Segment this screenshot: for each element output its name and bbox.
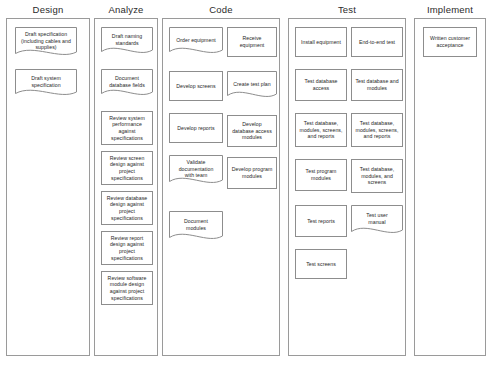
task-node-label: Review software module design against pr… (105, 275, 149, 301)
task-node-label: Written customer acceptance (427, 35, 473, 48)
task-lane-test-lane-2: End-to-end testTest database and modules… (289, 19, 405, 355)
task-node-review-software-module-design[interactable]: Review software module design against pr… (101, 271, 153, 305)
task-node-label: End-to-end test (355, 39, 399, 46)
task-node-receive-equipment[interactable]: Receive equipment (227, 27, 277, 57)
phase-task-board: DesignDraft specification (including cab… (0, 0, 492, 370)
phase-column-body-implement: Written customer acceptance (414, 18, 486, 356)
task-lane-analyze-lane-1: Draft naming standardsDocument database … (95, 19, 157, 355)
task-node-draft-specification[interactable]: Draft specification (including cables an… (15, 27, 77, 61)
task-node-develop-database-access-modules[interactable]: Develop database access modules (227, 115, 277, 147)
phase-column-header-design: Design (6, 4, 90, 16)
phase-column-body-code: Order equipmentDevelop screensDevelop re… (162, 18, 280, 356)
task-node-test-database-and-modules[interactable]: Test database and modules (351, 69, 403, 101)
task-node-review-database-design[interactable]: Review database design against project s… (101, 191, 153, 225)
task-node-label: Validate documentation with team (175, 159, 217, 179)
task-node-end-to-end-test[interactable]: End-to-end test (351, 27, 403, 57)
task-node-review-system-performance[interactable]: Review system performance against specif… (101, 111, 153, 145)
phase-column-body-analyze: Draft naming standardsDocument database … (94, 18, 158, 356)
phase-column-header-test: Test (288, 4, 406, 16)
phase-column-body-design: Draft specification (including cables an… (6, 18, 90, 356)
task-lane-design-lane-1: Draft specification (including cables an… (7, 19, 89, 355)
task-node-review-screen-design[interactable]: Review screen design against project spe… (101, 151, 153, 185)
task-node-label: Develop database access modules (231, 121, 273, 141)
task-node-draft-system-specification[interactable]: Draft system specification (15, 69, 77, 101)
phase-column-implement: ImplementWritten customer acceptance (414, 4, 486, 356)
task-node-draft-naming-standards[interactable]: Draft naming standards (101, 27, 153, 59)
task-node-label: Draft system specification (21, 75, 71, 88)
task-node-test-user-manual[interactable]: Test user manual (351, 205, 403, 239)
task-node-label: Order equipment (175, 37, 217, 44)
task-node-label: Document modules (175, 218, 217, 231)
phase-column-test: TestInstall equipmentTest database acces… (288, 4, 406, 356)
task-node-label: Test database and modules (355, 78, 399, 91)
phase-column-header-code: Code (162, 4, 280, 16)
task-node-document-database-fields[interactable]: Document database fields (101, 69, 153, 101)
task-node-label: Draft naming standards (107, 33, 147, 46)
task-node-label: Document database fields (107, 75, 147, 88)
task-node-label: Review system performance against specif… (105, 115, 149, 141)
task-node-test-database-modules-screens-and-reports-2[interactable]: Test database, modules, screens, and rep… (351, 113, 403, 147)
task-node-develop-program-modules[interactable]: Develop program modules (227, 157, 277, 189)
task-node-test-database-modules-and-screens[interactable]: Test database, modules, and screens (351, 159, 403, 193)
task-node-label: Receive equipment (231, 35, 273, 48)
task-node-label: Review database design against project s… (105, 195, 149, 221)
phase-column-header-analyze: Analyze (94, 4, 158, 16)
task-node-label: Test user manual (357, 212, 397, 225)
phase-column-header-implement: Implement (414, 4, 486, 16)
phase-column-analyze: AnalyzeDraft naming standardsDocument da… (94, 4, 158, 356)
task-node-review-report-design[interactable]: Review report design against project spe… (101, 231, 153, 265)
task-node-label: Create test plan (233, 81, 271, 88)
task-node-written-customer-acceptance[interactable]: Written customer acceptance (423, 27, 477, 57)
phase-column-design: DesignDraft specification (including cab… (6, 4, 90, 356)
task-node-create-test-plan[interactable]: Create test plan (227, 71, 277, 103)
task-node-label: Test database, modules, screens, and rep… (355, 120, 399, 140)
task-node-label: Draft specification (including cables an… (21, 31, 71, 51)
task-lane-implement-lane-1: Written customer acceptance (415, 19, 485, 355)
task-node-label: Review report design against project spe… (105, 235, 149, 261)
phase-column-code: CodeOrder equipmentDevelop screensDevelo… (162, 4, 280, 356)
task-node-label: Review screen design against project spe… (105, 155, 149, 181)
task-node-label: Develop program modules (231, 166, 273, 179)
task-node-label: Test database, modules, and screens (355, 166, 399, 186)
task-lane-code-lane-2: Receive equipmentCreate test planDevelop… (163, 19, 279, 355)
phase-column-body-test: Install equipmentTest database accessTes… (288, 18, 406, 356)
